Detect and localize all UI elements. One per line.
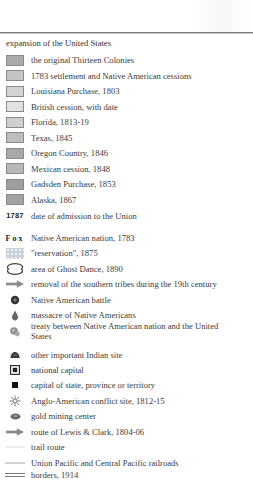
legend-item-gadsden-purchase: Gadsden Purchase, 1853: [0, 178, 253, 191]
double-line-icon: [5, 469, 25, 481]
dotted-pattern-swatch-icon: [5, 247, 25, 259]
legend-item-trail-route: trail route: [0, 441, 253, 454]
outline-blob-icon: [5, 263, 25, 275]
swatch-icon: [5, 178, 25, 190]
legend-item-ghost-dance: area of Ghost Dance, 1890: [0, 263, 253, 276]
legend-item-thirteen-colonies: the original Thirteen Colonies: [0, 54, 253, 67]
swatch-icon: [5, 147, 25, 159]
legend-item-treaty: treaty between Native American nation an…: [0, 321, 253, 345]
swatch-icon: [5, 132, 25, 144]
oval-dot-icon: [5, 410, 25, 422]
swatch-icon: [5, 85, 25, 97]
legend-item-oregon-country: Oregon Country, 1846: [0, 147, 253, 160]
treaty-seal-icon: [5, 326, 25, 338]
battle-dot-icon: [5, 294, 25, 306]
legend-item-anglo-american-conflict: Anglo-American conflict site, 1812-15: [0, 395, 253, 408]
legend-item-1783-settlement: 1783 settlement and Native American cess…: [0, 70, 253, 83]
small-square-icon: [5, 379, 25, 391]
star-burst-icon: [5, 395, 25, 407]
mound-icon: [5, 349, 25, 361]
year-tag-icon: 1787: [5, 210, 25, 222]
swatch-icon: [5, 163, 25, 175]
legend-item-national-capital: national capital: [0, 364, 253, 377]
top-blank-area: [0, 0, 253, 32]
legend-item-alaska: Alaska, 1867: [0, 194, 253, 207]
arrow-right-icon: [5, 426, 25, 438]
droplet-icon: [5, 309, 25, 321]
legend-item-mexican-cession: Mexican cession, 1848: [0, 163, 253, 176]
legend-item-british-cession: British cession, with date: [0, 101, 253, 114]
legend-item-railroads: Union Pacific and Central Pacific railro…: [0, 457, 253, 470]
legend-item-native-battle: Native American battle: [0, 294, 253, 307]
legend-item-admission-date: 1787 date of admission to the Union: [0, 210, 253, 223]
arrow-right-icon: [5, 278, 25, 290]
swatch-icon: [5, 101, 25, 113]
boxed-square-icon: [5, 364, 25, 376]
legend-item-indian-site: other important Indian site: [0, 349, 253, 362]
legend-item-louisiana-purchase: Louisiana Purchase, 1803: [0, 85, 253, 98]
legend-item-gold-mining: gold mining center: [0, 410, 253, 423]
legend-item-borders-1914: borders, 1914: [0, 469, 253, 482]
thin-line-icon: [5, 441, 25, 453]
swatch-icon: [5, 116, 25, 128]
swatch-icon: [5, 70, 25, 82]
legend-item-lewis-clark: route of Lewis & Clark, 1804-06: [0, 426, 253, 439]
legend-item-reservation: "reservation", 1875: [0, 247, 253, 260]
divider-rule: [0, 32, 253, 33]
swatch-icon: [5, 194, 25, 206]
legend-item-texas: Texas, 1845: [0, 132, 253, 145]
nation-name-tag-icon: Fox: [5, 232, 25, 244]
legend-item-native-nation: Fox Native American nation, 1783: [0, 232, 253, 245]
legend-heading: expansion of the United States: [6, 38, 111, 49]
legend-item-florida: Florida, 1813-19: [0, 116, 253, 129]
line-icon: [5, 457, 25, 469]
swatch-icon: [5, 54, 25, 66]
legend-item-state-capital: capital of state, province or territory: [0, 379, 253, 392]
legend-item-southern-removal: removal of the southern tribes during th…: [0, 278, 253, 291]
